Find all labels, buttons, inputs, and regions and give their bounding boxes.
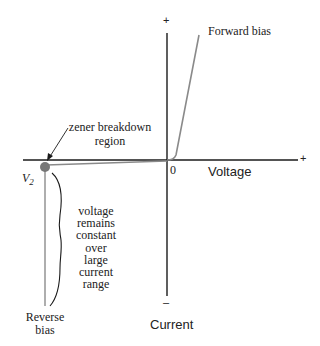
origin-label: 0 (170, 163, 176, 178)
y-axis-plus-sign: + (163, 14, 169, 26)
forward-bias-label: Forward bias (208, 24, 271, 39)
constant-voltage-brace (50, 173, 61, 306)
zener-label-line-1: zener breakdown (68, 120, 152, 134)
zener-pointer-line (49, 128, 68, 158)
zener-breakdown-point (40, 162, 50, 172)
reverse-bias-label: Reverse bias (20, 311, 70, 337)
diagram-graphics (0, 0, 320, 346)
note-line: range (70, 278, 122, 290)
vz-label: V2 (22, 171, 34, 187)
y-axis-minus-sign: – (163, 296, 169, 308)
x-axis-plus-sign: + (300, 152, 306, 164)
constant-voltage-note: voltage remains constant over large curr… (70, 205, 122, 290)
zener-breakdown-label: zener breakdown region (68, 120, 152, 148)
voltage-axis-label: Voltage (208, 164, 251, 179)
forward-bias-curve (167, 35, 199, 160)
zener-diode-diagram: + + – 0 Voltage Current Forward bias zen… (0, 0, 320, 346)
zener-label-line-2: region (68, 134, 152, 148)
note-line: constant (70, 229, 122, 241)
reverse-bias-line-2: bias (20, 324, 70, 337)
current-axis-label: Current (150, 317, 193, 332)
reverse-leakage-curve (46, 161, 167, 165)
note-line: over (70, 242, 122, 254)
vz-subscript: 2 (29, 177, 34, 187)
